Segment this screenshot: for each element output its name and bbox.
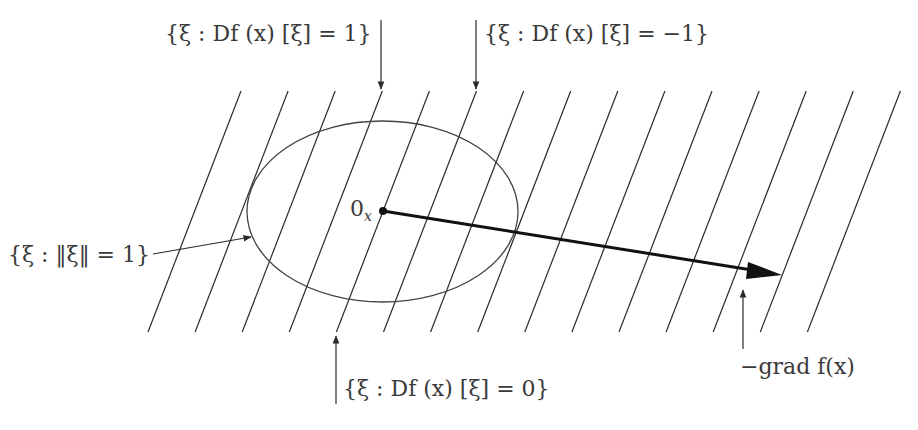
label-unit-sphere: {ξ : ‖ξ‖ = 1} bbox=[8, 244, 150, 266]
hatch-line bbox=[666, 91, 759, 332]
hatch-line bbox=[478, 91, 571, 332]
hatch-line bbox=[572, 91, 665, 332]
level-set-hatch-lines bbox=[148, 91, 900, 332]
label-level-zero: {ξ : Df (x) [ξ] = 0} bbox=[343, 378, 550, 400]
hatch-line bbox=[807, 91, 900, 332]
neg-gradient-arrowhead-icon bbox=[746, 262, 782, 279]
origin-point bbox=[379, 207, 387, 215]
hatch-line bbox=[431, 91, 524, 332]
hatch-line bbox=[148, 91, 241, 332]
label-level-minus-one: {ξ : Df (x) [ξ] = −1} bbox=[484, 23, 709, 45]
label-origin: 0x bbox=[350, 198, 372, 220]
hatch-line bbox=[619, 91, 712, 332]
hatch-line bbox=[713, 91, 806, 332]
hatch-line bbox=[760, 91, 853, 332]
pointer-unit-sphere bbox=[153, 237, 251, 254]
hatch-line bbox=[525, 91, 618, 332]
origin-label-main: 0 bbox=[350, 196, 364, 221]
hatch-line bbox=[242, 91, 335, 332]
hatch-line bbox=[195, 91, 288, 332]
label-neg-gradient: −grad f(x) bbox=[740, 356, 855, 378]
label-level-plus-one: {ξ : Df (x) [ξ] = 1} bbox=[165, 23, 372, 45]
origin-label-subscript: x bbox=[364, 208, 372, 224]
